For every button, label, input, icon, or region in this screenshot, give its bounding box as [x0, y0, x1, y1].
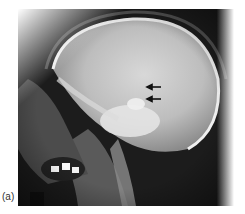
skull-radiograph — [18, 9, 234, 206]
panel-label: (a) — [2, 191, 14, 202]
